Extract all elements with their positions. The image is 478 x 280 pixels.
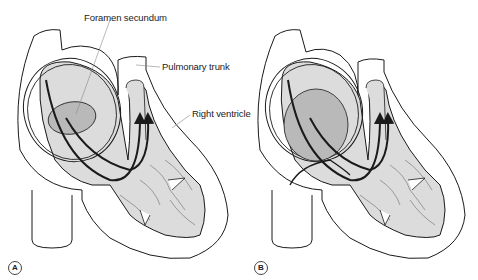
label-foramen-secundum: Foramen secundum <box>84 12 167 23</box>
heart-diagram-svg <box>0 0 478 280</box>
panel-a-heart <box>9 20 228 259</box>
label-pulmonary-trunk: Pulmonary trunk <box>162 61 230 72</box>
panel-badge-b: B <box>254 261 268 275</box>
label-right-ventricle: Right ventricle <box>192 108 251 119</box>
panel-b-heart <box>251 30 465 259</box>
panel-badge-a: A <box>8 261 22 275</box>
heart-development-figure: Foramen secundum Pulmonary trunk Right v… <box>0 0 478 280</box>
